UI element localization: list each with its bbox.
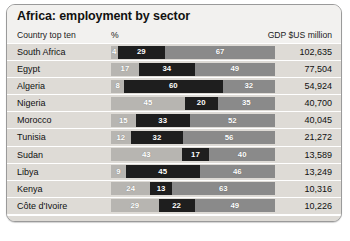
industry-swatch bbox=[165, 221, 179, 222]
table-row: Morocco15335240,045 bbox=[7, 112, 341, 129]
bar-segment-value: 32 bbox=[153, 134, 162, 142]
bar-segment-primary: 8 bbox=[111, 80, 124, 93]
stacked-bar: 42967 bbox=[111, 46, 275, 59]
bar-segment-value: 49 bbox=[230, 65, 239, 73]
bar-segment-value: 29 bbox=[130, 202, 139, 210]
stacked-bar: 292249 bbox=[111, 199, 275, 212]
bar-segment-value: 22 bbox=[172, 202, 181, 210]
stacked-bar: 173449 bbox=[111, 63, 275, 76]
table-row: South Africa42967102,635 bbox=[7, 43, 341, 61]
bar-segment-value: 60 bbox=[169, 82, 178, 90]
stacked-bar: 153352 bbox=[111, 114, 275, 127]
row-country-label: Algeria bbox=[17, 78, 45, 94]
row-gdp-value: 10,316 bbox=[304, 181, 332, 197]
bar-segment-service: 49 bbox=[195, 63, 275, 76]
table-row: Tunisia12325621,272 bbox=[7, 129, 341, 146]
bar-segment-value: 32 bbox=[244, 82, 253, 90]
stacked-bar: 431740 bbox=[111, 148, 275, 161]
bar-segment-value: 15 bbox=[119, 117, 128, 125]
bar-segment-primary: 29 bbox=[111, 199, 159, 212]
bar-segment-service: 46 bbox=[200, 165, 275, 178]
row-gdp-value: 77,504 bbox=[304, 61, 332, 77]
table-row: Algeria8603254,924 bbox=[7, 78, 341, 95]
chart-panel: Africa: employment by sector Country top… bbox=[6, 4, 342, 222]
page-title: Africa: employment by sector bbox=[17, 7, 341, 25]
bar-segment-value: 20 bbox=[197, 99, 206, 107]
table-row: Nigeria45203540,700 bbox=[7, 95, 341, 112]
stacked-bar: 241363 bbox=[111, 182, 275, 195]
bar-segment-service: 49 bbox=[195, 199, 275, 212]
table-row: Sudan43174013,589 bbox=[7, 147, 341, 164]
bar-segment-value: 45 bbox=[144, 99, 153, 107]
row-country-label: Kenya bbox=[17, 181, 43, 197]
bar-segment-industry: 60 bbox=[124, 80, 222, 93]
bar-segment-value: 24 bbox=[126, 185, 135, 193]
row-country-label: Egypt bbox=[17, 61, 40, 77]
column-header-gdp: GDP $US million bbox=[268, 29, 332, 42]
bar-segment-service: 35 bbox=[218, 97, 275, 110]
stacked-bar: 123256 bbox=[111, 131, 275, 144]
bar-segment-value: 63 bbox=[219, 185, 228, 193]
row-gdp-value: 21,272 bbox=[304, 129, 332, 145]
bar-segment-value: 8 bbox=[115, 82, 119, 90]
table-row: Libya9454613,249 bbox=[7, 164, 341, 181]
bar-segment-primary: 24 bbox=[111, 182, 150, 195]
bar-segment-primary: 43 bbox=[111, 148, 182, 161]
bar-segment-industry: 22 bbox=[159, 199, 195, 212]
bar-segment-value: 34 bbox=[162, 65, 171, 73]
bar-segment-value: 17 bbox=[121, 65, 130, 73]
bar-segment-value: 9 bbox=[116, 168, 120, 176]
bar-segment-value: 52 bbox=[228, 117, 237, 125]
row-gdp-value: 10,226 bbox=[304, 198, 332, 214]
bar-segment-service: 63 bbox=[172, 182, 275, 195]
bar-segment-primary: 17 bbox=[111, 63, 139, 76]
legend-item-primary: Primary (inc. Agriculture) % bbox=[20, 216, 144, 222]
legend-label-service: Service % bbox=[294, 221, 333, 222]
bar-segment-primary: 12 bbox=[111, 131, 131, 144]
bar-segment-service: 40 bbox=[209, 148, 275, 161]
bar-segment-value: 46 bbox=[233, 168, 242, 176]
bar-segment-value: 45 bbox=[158, 168, 167, 176]
table-row: Egypt17344977,504 bbox=[7, 61, 341, 78]
row-country-label: Sudan bbox=[17, 147, 43, 163]
legend-item-service: Service % bbox=[274, 216, 333, 222]
primary-swatch bbox=[20, 221, 34, 222]
row-gdp-value: 54,924 bbox=[304, 78, 332, 94]
bar-segment-industry: 33 bbox=[136, 114, 190, 127]
service-swatch bbox=[274, 221, 288, 222]
bar-segment-value: 40 bbox=[238, 151, 247, 159]
bar-segment-industry: 32 bbox=[131, 131, 183, 144]
row-gdp-value: 40,700 bbox=[304, 95, 332, 111]
row-gdp-value: 13,589 bbox=[304, 147, 332, 163]
bar-segment-value: 13 bbox=[157, 185, 166, 193]
bar-segment-primary: 15 bbox=[111, 114, 136, 127]
column-header-row: Country top ten % GDP $US million bbox=[7, 29, 341, 42]
bar-segment-value: 33 bbox=[158, 117, 167, 125]
title-bar: Africa: employment by sector bbox=[7, 5, 341, 28]
column-header-country: Country top ten bbox=[17, 29, 76, 42]
row-country-label: South Africa bbox=[17, 44, 66, 60]
column-header-percent: % bbox=[111, 29, 119, 42]
stacked-bar: 94546 bbox=[111, 165, 275, 178]
row-country-label: Côte d'Ivoire bbox=[17, 198, 67, 214]
bar-segment-primary: 9 bbox=[111, 165, 126, 178]
bar-segment-value: 4 bbox=[112, 48, 116, 56]
bar-segment-industry: 34 bbox=[139, 63, 195, 76]
legend-item-industry: Industry % bbox=[165, 216, 226, 222]
bar-segment-primary: 45 bbox=[111, 97, 185, 110]
bar-segment-value: 29 bbox=[137, 48, 146, 56]
row-gdp-value: 40,045 bbox=[304, 112, 332, 128]
bar-segment-value: 67 bbox=[216, 48, 225, 56]
row-gdp-value: 13,249 bbox=[304, 164, 332, 180]
legend-label-primary: Primary (inc. Agriculture) % bbox=[40, 221, 144, 222]
bar-segment-industry: 20 bbox=[185, 97, 218, 110]
bar-segment-industry: 45 bbox=[126, 165, 200, 178]
stacked-bar: 452035 bbox=[111, 97, 275, 110]
bar-segment-service: 32 bbox=[223, 80, 275, 93]
row-country-label: Morocco bbox=[17, 112, 52, 128]
bar-segment-value: 17 bbox=[191, 151, 200, 159]
row-country-label: Libya bbox=[17, 164, 39, 180]
table-row: Kenya24136310,316 bbox=[7, 181, 341, 198]
data-rows: South Africa42967102,635Egypt17344977,50… bbox=[7, 43, 341, 215]
bar-segment-service: 56 bbox=[183, 131, 275, 144]
